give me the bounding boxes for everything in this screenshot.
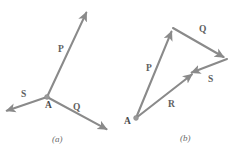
vector-label-b-s: S: [208, 74, 213, 84]
panel-a: A P S Q (a): [7, 13, 107, 144]
vertex-label-a: A: [45, 100, 52, 110]
vector-label-b-q: Q: [199, 24, 206, 34]
vector-arrow-b-s: [192, 59, 227, 73]
vector-label-b-r: R: [168, 99, 175, 109]
vector-label-a-p: P: [58, 44, 64, 54]
vector-arrow-a-p: [47, 13, 86, 97]
vertex-dot-a: [45, 95, 50, 100]
vector-label-b-p: P: [146, 63, 152, 73]
vertex-label-b: A: [124, 116, 131, 126]
vector-label-a-q: Q: [73, 102, 80, 112]
vector-arrow-a-s: [7, 97, 47, 111]
vector-diagram-canvas: A P S Q (a) A P Q S R (b): [0, 0, 235, 151]
panel-b: A P Q S R (b): [124, 24, 227, 143]
panel-caption-b: (b): [180, 133, 191, 143]
vector-diagram-figure: A P S Q (a) A P Q S R (b): [0, 0, 235, 151]
vertex-dot-b: [134, 116, 139, 121]
vector-label-a-s: S: [21, 89, 26, 99]
panel-caption-a: (a): [52, 134, 63, 144]
